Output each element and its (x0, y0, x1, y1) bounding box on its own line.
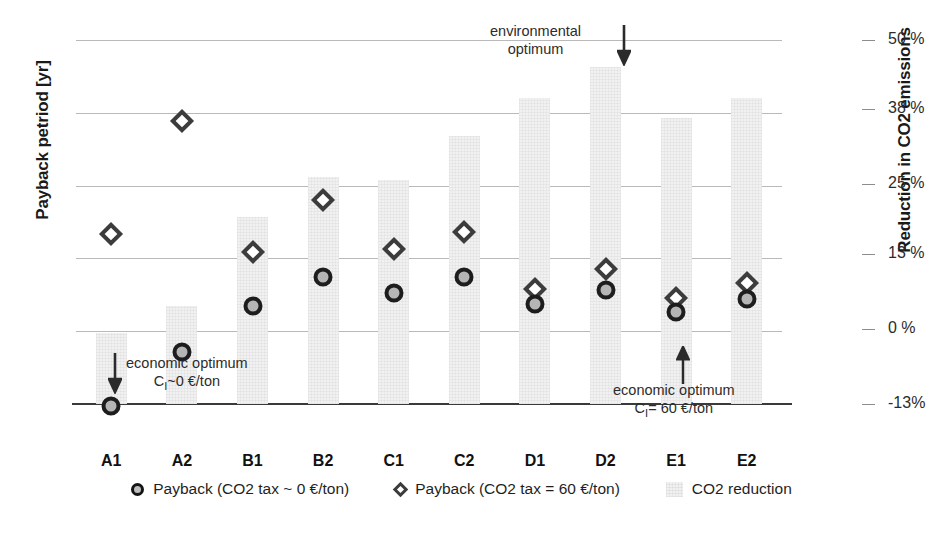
circle-marker-icon (131, 483, 144, 496)
legend-item-1[interactable]: Payback (CO2 tax = 60 €/ton) (395, 480, 620, 498)
y-axis-right-tick-label: 38 % (888, 99, 930, 117)
annotation-line-1: economic optimum (126, 354, 248, 372)
legend-item-2[interactable]: CO2 reduction (666, 480, 792, 498)
annotation-line-2: CI= 60 €/ton (613, 399, 735, 421)
bar-swatch-icon (666, 482, 683, 497)
y-axis-left-title: Payback petriod [yr] (33, 5, 53, 275)
circle-marker (455, 268, 474, 287)
y-axis-right-tick-label: -13% (888, 394, 930, 412)
circle-marker (667, 302, 686, 321)
y-axis-right-tick-mark (862, 329, 875, 330)
circle-marker (102, 397, 121, 416)
circle-marker (314, 268, 333, 287)
legend-item-label: Payback (CO2 tax ~ 0 €/ton) (153, 480, 349, 498)
x-axis-tick-label-b2: B2 (293, 452, 353, 470)
x-axis-tick-label-c1: C1 (364, 452, 424, 470)
diamond-marker-icon (393, 481, 409, 497)
y-axis-right-tick-mark (862, 184, 875, 185)
x-axis-tick-label-d1: D1 (505, 452, 565, 470)
y-axis-right-tick-label: 50 % (888, 30, 930, 48)
x-axis-tick-label-e2: E2 (717, 452, 777, 470)
annotation-line-2: optimum (490, 40, 581, 58)
annotation-line-2: CI~0 €/ton (126, 372, 248, 394)
annotation-line-1: environmental (490, 22, 581, 40)
chart-legend: Payback (CO2 tax ~ 0 €/ton)Payback (CO2 … (0, 480, 923, 498)
x-axis-tick-label-b1: B1 (223, 452, 283, 470)
legend-item-label: CO2 reduction (692, 480, 792, 498)
x-axis-tick-label-a2: A2 (152, 452, 212, 470)
x-axis-tick-label-a1: A1 (81, 452, 141, 470)
y-axis-right-tick-mark (862, 254, 875, 255)
circle-marker (737, 289, 756, 308)
y-axis-right-tick-label: 13 % (888, 244, 930, 262)
annotation-economic-optimum-low-tax: economic optimumCI~0 €/ton (126, 354, 248, 394)
gridline (76, 40, 782, 41)
circle-marker (243, 297, 262, 316)
diamond-marker (99, 222, 123, 246)
annotation-environmental-optimum: environmentaloptimum (490, 22, 581, 58)
arrow-down-icon (108, 352, 122, 394)
bar (519, 98, 550, 404)
y-axis-right-tick-mark (862, 40, 875, 41)
arrow-up-icon (676, 346, 690, 384)
arrow-down-icon (617, 24, 631, 66)
x-axis-tick-label-c2: C2 (434, 452, 494, 470)
y-axis-right-tick-label: 25 % (888, 174, 930, 192)
y-axis-right-tick-label: 0 % (888, 319, 930, 337)
legend-item-0[interactable]: Payback (CO2 tax ~ 0 €/ton) (131, 480, 349, 498)
bar (590, 67, 621, 404)
x-axis-tick-label-d2: D2 (576, 452, 636, 470)
circle-marker (384, 284, 403, 303)
annotation-line-1: economic optimum (613, 381, 735, 399)
legend-item-label: Payback (CO2 tax = 60 €/ton) (415, 480, 620, 498)
y-axis-right-tick-mark (862, 404, 875, 405)
circle-marker (525, 295, 544, 314)
circle-marker (596, 280, 615, 299)
bar (731, 98, 762, 404)
y-axis-right-tick-mark (862, 109, 875, 110)
x-axis-tick-label-e1: E1 (646, 452, 706, 470)
annotation-economic-optimum-high-tax: economic optimumCI= 60 €/ton (613, 381, 735, 421)
